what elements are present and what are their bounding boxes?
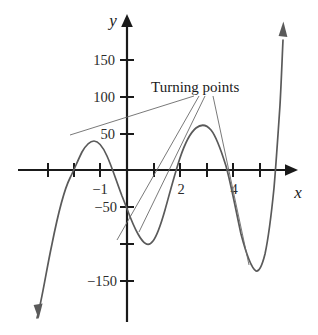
x-axis-label: x xyxy=(293,183,302,202)
y-tick-label--50: −50 xyxy=(94,199,117,215)
y-tick-label-50: 50 xyxy=(101,126,116,142)
y-axis-label: y xyxy=(107,11,117,30)
curve-arrowhead-top-right xyxy=(279,22,288,38)
y-tick-label--150: −150 xyxy=(87,273,117,289)
curve-arrowhead-bottom-left xyxy=(34,304,43,319)
leader-line-to-turning-point-2 xyxy=(117,96,199,240)
turning-points-annotation: Turning points xyxy=(151,79,239,95)
y-axis-arrowhead xyxy=(121,14,133,27)
y-tick-label-100: 100 xyxy=(93,89,115,105)
polynomial-turning-points-figure: 150 100 50 −50 −150 −1 2 4 y x T xyxy=(0,0,318,335)
x-tick-label--1: −1 xyxy=(92,181,107,197)
leader-line-to-turning-point-1 xyxy=(70,96,194,135)
leader-line-to-turning-point-3 xyxy=(139,96,205,232)
chart-canvas: 150 100 50 −50 −150 −1 2 4 y x T xyxy=(0,0,318,335)
x-axis-arrowhead xyxy=(285,164,298,176)
leader-line-to-turning-point-4 xyxy=(213,96,249,265)
y-tick-label-150: 150 xyxy=(93,52,115,68)
x-tick-label-2: 2 xyxy=(177,181,184,197)
